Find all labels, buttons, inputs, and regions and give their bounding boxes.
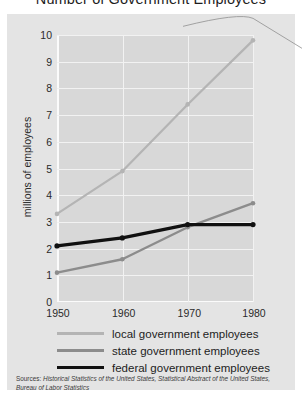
gridline-y-9 xyxy=(57,62,254,63)
y-tick: 2 xyxy=(18,244,52,254)
gridline-y-3 xyxy=(57,222,254,223)
gridline-y-7 xyxy=(57,115,254,116)
x-tick: 1980 xyxy=(232,307,276,319)
gridline-x-1960 xyxy=(123,35,124,302)
gridline-y-1 xyxy=(57,275,254,276)
y-tick: 9 xyxy=(18,57,52,67)
x-tick: 1970 xyxy=(167,307,211,319)
y-axis-label: millions of employees xyxy=(21,107,33,227)
y-tick: 10 xyxy=(18,30,52,40)
chart-legend: local government employees state governm… xyxy=(57,325,287,376)
legend-item-state: state government employees xyxy=(57,342,287,359)
gridline-y-6 xyxy=(57,142,254,143)
gridline-x-1980 xyxy=(253,35,254,302)
plot-area xyxy=(57,35,254,302)
y-tick: 0 xyxy=(18,297,52,307)
chart-screenshot: Number of Government Employees 10 9 8 7 … xyxy=(0,0,302,407)
x-axis-line xyxy=(57,301,254,303)
legend-label-federal: federal government employees xyxy=(112,362,270,374)
x-axis-ticks: 1950 1960 1970 1980 xyxy=(57,307,254,321)
gridline-y-2 xyxy=(57,249,254,250)
gridline-y-10 xyxy=(57,35,254,36)
legend-item-local: local government employees xyxy=(57,325,287,342)
legend-label-state: state government employees xyxy=(112,345,260,357)
legend-label-local: local government employees xyxy=(112,328,258,340)
gridline-x-1970 xyxy=(188,35,189,302)
y-tick: 1 xyxy=(18,270,52,280)
page-title: Number of Government Employees xyxy=(0,0,302,7)
x-tick: 1960 xyxy=(102,307,146,319)
gridline-y-4 xyxy=(57,195,254,196)
gridline-y-5 xyxy=(57,169,254,170)
gridline-y-8 xyxy=(57,88,254,89)
x-tick: 1950 xyxy=(36,307,80,319)
y-tick: 8 xyxy=(18,83,52,93)
y-axis-ticks: 10 9 8 7 6 5 4 3 2 1 0 millions of emplo… xyxy=(14,35,52,302)
sources-text: Historical Statistics of the United Stat… xyxy=(16,375,270,391)
sources-note: Sources: Historical Statistics of the Un… xyxy=(16,374,274,392)
sources-prefix: Sources: xyxy=(16,375,41,382)
